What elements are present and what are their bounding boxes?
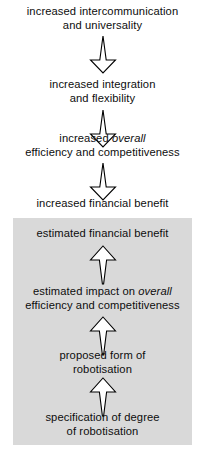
node-increased-integration: increased integration and flexibility [0,77,205,105]
node-line-1: increased integration [0,77,205,91]
node-line-1-text: estimated impact on [33,285,138,297]
node-line-2: efficiency and competitiveness [0,145,205,159]
node-estimated-impact-overall-efficiency: estimated impact on overall efficiency a… [0,284,205,312]
node-line-1: proposed form of [0,348,205,362]
node-line-1: estimated financial benefit [0,226,205,240]
node-line-1-emphasis: overall [138,285,172,297]
node-line-2: and flexibility [0,91,205,105]
node-line-2: efficiency and competitiveness [0,298,205,312]
node-line-2: robotisation [0,362,205,376]
node-line-1: specification of degree [0,410,205,424]
node-increased-financial-benefit: increased financial benefit [0,196,205,210]
node-line-1: increased intercommunication [0,4,205,18]
node-line-1-text: increased [59,132,112,144]
arrow-up-connector-4 [88,245,118,285]
node-increased-overall-efficiency: increased overall efficiency and competi… [0,131,205,159]
node-proposed-form-of-robotisation: proposed form of robotisation [0,348,205,376]
node-estimated-financial-benefit: estimated financial benefit [0,226,205,240]
node-line-1: increased overall [0,131,205,145]
flowchart-diagram: increased intercommunication and univers… [0,0,205,457]
arrow-down-connector-1 [88,36,118,74]
node-line-2: and universality [0,18,205,32]
node-specification-of-degree-of-robotisation: specification of degree of robotisation [0,410,205,438]
node-line-2: of robotisation [0,424,205,438]
node-line-1-emphasis: overall [112,132,146,144]
node-increased-intercommunication: increased intercommunication and univers… [0,4,205,32]
node-line-1: increased financial benefit [0,196,205,210]
node-line-1: estimated impact on overall [0,284,205,298]
